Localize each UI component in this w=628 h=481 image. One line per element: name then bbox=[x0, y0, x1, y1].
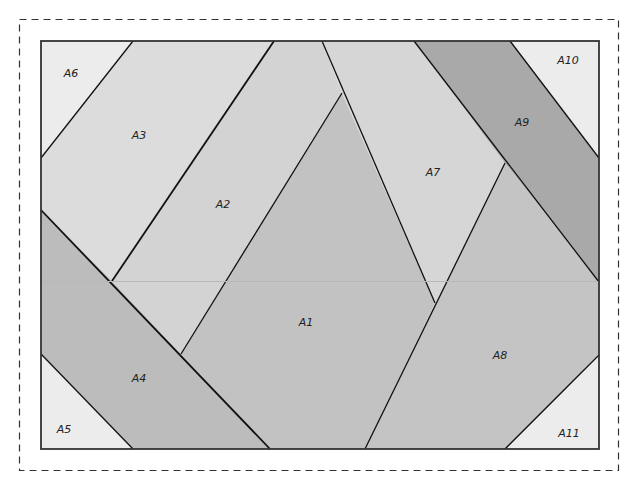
piece-label-a2: A2 bbox=[215, 198, 231, 211]
piece-label-a3: A3 bbox=[131, 129, 147, 142]
piece-label-a6: A6 bbox=[63, 67, 79, 80]
piece-label-a10: A10 bbox=[556, 54, 579, 67]
quilt-diagram: A1A2A3A4A5A6A7A8A9A10A11 bbox=[0, 0, 628, 481]
piece-label-a7: A7 bbox=[425, 166, 441, 179]
diagram-canvas: A1A2A3A4A5A6A7A8A9A10A11 bbox=[0, 0, 628, 481]
piece-label-a8: A8 bbox=[492, 349, 508, 362]
pieces-layer bbox=[41, 41, 599, 449]
piece-label-a9: A9 bbox=[514, 116, 530, 129]
piece-label-a5: A5 bbox=[56, 423, 72, 436]
piece-label-a11: A11 bbox=[557, 427, 580, 440]
piece-label-a1: A1 bbox=[298, 316, 314, 329]
piece-label-a4: A4 bbox=[131, 372, 147, 385]
